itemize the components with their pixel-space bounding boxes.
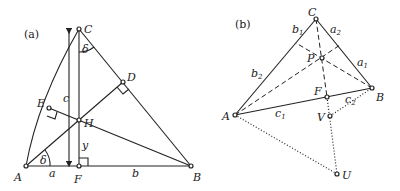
point-b [370,86,374,90]
label-f: F [313,85,322,98]
panel-b: (b) C P B F A V U b1 a2 a1 b2 c1 [221,6,384,182]
label-a2: a2 [330,23,342,37]
label-b1: b1 [292,23,304,37]
dotted-fu [327,97,337,174]
label-h: H [83,117,94,130]
point-v [328,114,332,118]
label-seg-b: b [132,167,139,180]
label-seg-a: a [49,167,56,180]
label-f: F [73,173,82,186]
label-c1: c1 [275,107,286,121]
label-a: A [13,171,22,184]
label-b2: b2 [251,67,263,81]
point-h [77,118,81,122]
point-p [320,56,324,60]
label-seg-c: c [63,92,69,105]
label-d: D [126,71,136,84]
panel-b-tag: (b) [235,18,251,31]
label-angle-a: δ [40,154,47,167]
label-v: V [317,111,326,124]
side-cb [79,29,191,166]
panel-a-tag: (a) [24,28,39,41]
point-f [325,95,329,99]
label-p: P [306,52,315,65]
label-a: A [221,110,230,123]
label-b: B [192,171,201,184]
point-u [335,172,339,176]
panel-a: (a) A F B C H E D a b c [13,23,201,186]
label-c2: c2 [345,93,356,107]
point-f [77,164,81,168]
altitude-be [49,108,191,166]
label-u: U [342,169,352,182]
point-b [189,164,193,168]
point-a [24,164,28,168]
side-ac [235,19,316,115]
label-e: E [36,97,45,110]
point-e [47,106,51,110]
label-b: B [375,91,384,104]
label-c: C [84,23,93,36]
label-c: C [308,6,317,19]
label-angle-c: δ [82,43,89,56]
point-c [77,27,81,31]
label-a1: a1 [357,56,368,70]
label-seg-y: y [81,139,89,152]
point-d [121,80,125,84]
side-ac [26,29,79,166]
right-angle-e [47,112,57,119]
point-a [233,113,237,117]
diagram-canvas: (a) A F B C H E D a b c [0,0,400,191]
